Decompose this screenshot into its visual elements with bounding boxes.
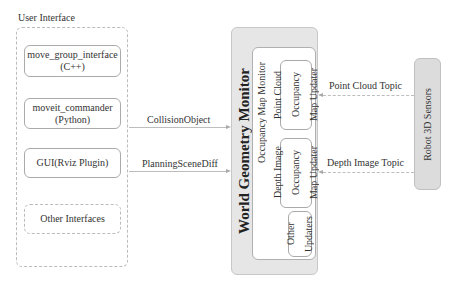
user-interface-title: User Interface (18, 12, 75, 23)
point-cloud-arrow-line (323, 95, 414, 96)
other-interfaces-label: Other Interfaces (40, 213, 105, 225)
other-updaters-line1: Other (285, 223, 296, 246)
point-cloud-updater-box: Point Cloud Occupancy Map Updater (280, 60, 312, 130)
move-group-interface-lang: (C++) (60, 61, 85, 73)
depth-image-topic-label: Depth Image Topic (327, 157, 404, 168)
depth-image-updater-box: Depth Image Occupancy Map Updater (280, 138, 312, 208)
robot-3d-sensors-box: Robot 3D Sensors (414, 58, 441, 190)
depth-image-updater-line1: Depth Image (272, 147, 283, 199)
moveit-commander-lang: (Python) (55, 114, 90, 126)
depth-image-arrow-line (323, 172, 414, 173)
other-interfaces-box: Other Interfaces (24, 204, 121, 234)
collision-object-label: CollisionObject (147, 114, 210, 125)
point-cloud-updater-line2: Occupancy (290, 73, 301, 118)
point-cloud-topic-label: Point Cloud Topic (329, 80, 402, 91)
collision-object-arrow-line (129, 127, 226, 128)
depth-image-updater-line2: Occupancy (290, 151, 301, 196)
robot-3d-sensors-label: Robot 3D Sensors (422, 88, 433, 161)
point-cloud-updater-line1: Point Cloud (272, 71, 283, 119)
occupancy-map-monitor-title: Occupancy Map Monitor (255, 47, 269, 177)
moveit-commander-box: moveit_commander (Python) (24, 98, 121, 129)
planning-scene-diff-arrow-line (129, 171, 226, 172)
gui-rviz-plugin-label: GUI(Rviz Plugin) (37, 157, 109, 169)
planning-scene-diff-label: PlanningSceneDiff (142, 158, 218, 169)
other-updaters-box: Other Updaters (288, 211, 312, 257)
move-group-interface-box: move_group_interface (C++) (24, 45, 121, 77)
world-geometry-monitor-title: World Geometry Monitor (234, 27, 254, 275)
gui-rviz-plugin-box: GUI(Rviz Plugin) (24, 148, 121, 178)
other-updaters-line2: Updaters (303, 216, 314, 252)
move-group-interface-label: move_group_interface (27, 49, 118, 61)
moveit-commander-label: moveit_commander (33, 102, 113, 114)
